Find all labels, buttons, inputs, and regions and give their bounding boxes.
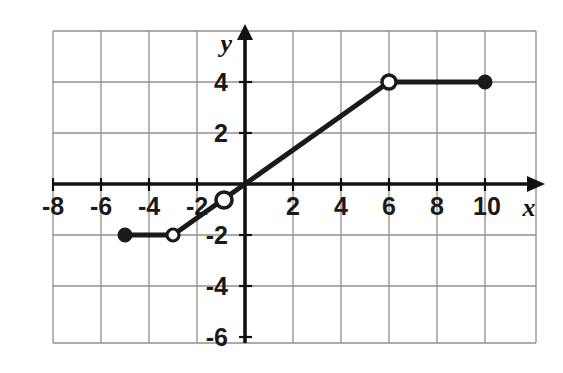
x-tick-label: 2 [286,192,300,220]
y-tick-label: -6 [206,323,228,351]
open-point-mid-slope [216,192,232,208]
y-tick-label: -4 [206,272,228,300]
closed-point-left-end [119,229,132,242]
x-tick-label: 10 [473,192,501,220]
y-tick-label: -2 [206,221,228,249]
x-tick-label: 6 [382,192,396,220]
y-tick-label: 4 [214,68,228,96]
open-point-left-break [167,229,179,241]
coordinate-plane: -8 -6 -4 -2 2 4 6 8 10 4 2 -2 -4 -6 y x [0,0,563,373]
y-tick-label: 2 [214,119,228,147]
figure-background [0,0,563,373]
x-tick-label: 8 [430,192,444,220]
closed-point-right-end [479,76,492,89]
open-point-right-break [382,75,396,89]
x-tick-label: 4 [334,192,348,220]
x-tick-label: -4 [138,192,160,220]
x-tick-label: -8 [42,192,64,220]
x-axis-label: x [522,193,536,222]
x-tick-label: -6 [90,192,112,220]
y-axis-label: y [217,29,232,58]
graph-figure: -8 -6 -4 -2 2 4 6 8 10 4 2 -2 -4 -6 y x [0,0,563,373]
